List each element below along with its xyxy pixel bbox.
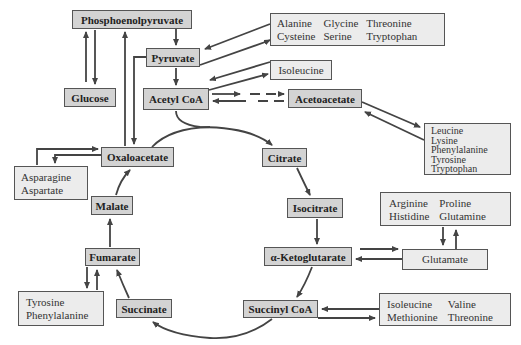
aa-group-pyruvate: Alanine Glycine Threonine Cysteine Serin… [270, 13, 445, 46]
node-isocitrate: Isocitrate [287, 198, 343, 218]
aa-group-glutamate-sources: Arginine Proline Histidine Glutamine [380, 192, 511, 226]
node-malate: Malate [91, 196, 133, 215]
node-glucose: Glucose [64, 88, 116, 107]
aa-group-fumarate: Tyrosine Phenylalanine [18, 291, 104, 326]
aa-glutamate: Glutamate [402, 249, 488, 270]
aa-group-succinyl-coa: Isoleucine Valine Methionine Threonine [379, 293, 511, 326]
node-alpha-ketoglutarate: α-Ketoglutarate [264, 247, 352, 266]
aa-group-acetoacetate: Leucine Lysine Phenylalanine Tyrosine Tr… [424, 123, 511, 175]
citric-acid-cycle-diagram: Phosphoenolpyruvate Pyruvate Glucose Ace… [0, 0, 521, 345]
node-phosphoenolpyruvate: Phosphoenolpyruvate [72, 10, 192, 29]
node-pyruvate: Pyruvate [146, 48, 200, 67]
node-succinate: Succinate [116, 299, 172, 318]
node-oxaloacetate: Oxaloacetate [101, 147, 174, 167]
aa-group-acetyl-coa: Isoleucine [270, 60, 332, 80]
node-succinyl-coa: Succinyl CoA [243, 300, 318, 318]
node-fumarate: Fumarate [85, 248, 140, 266]
node-citrate: Citrate [262, 148, 307, 167]
node-acetyl-coa: Acetyl CoA [143, 88, 209, 110]
aa-group-oxaloacetate: Asparagine Aspartate [14, 166, 88, 200]
node-acetoacetate: Acetoacetate [288, 89, 362, 108]
